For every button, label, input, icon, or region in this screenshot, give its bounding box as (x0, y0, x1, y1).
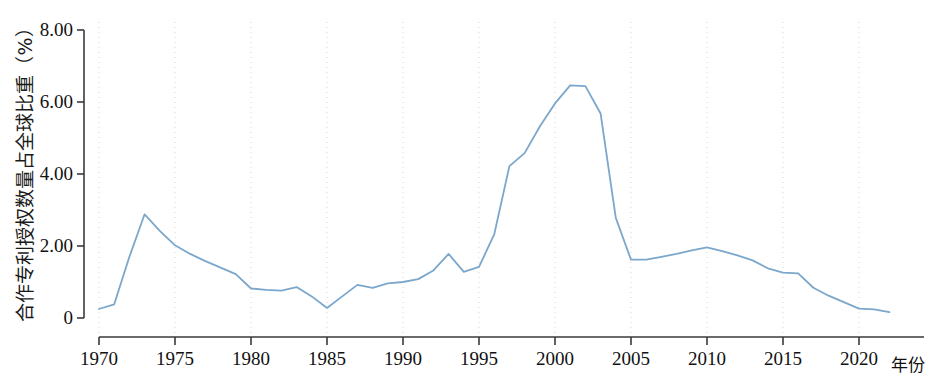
x-tick-label-1975: 1975 (147, 349, 203, 368)
y-tick-label-6: 6.00 (40, 92, 73, 111)
x-tick-label-1995: 1995 (451, 349, 507, 368)
x-tick-label-1980: 1980 (223, 349, 279, 368)
y-tick-label-8: 8.00 (40, 20, 73, 39)
x-tick-label-1990: 1990 (375, 349, 431, 368)
x-tick-label-2005: 2005 (603, 349, 659, 368)
y-tick-label-2: 2.00 (40, 236, 73, 255)
data-series-line (99, 85, 889, 312)
x-axis-title: 年份 (891, 351, 925, 376)
y-tick-label-4: 4.00 (40, 164, 73, 183)
x-tick-label-1970: 1970 (71, 349, 127, 368)
x-tick-label-1985: 1985 (299, 349, 355, 368)
x-tick-label-2015: 2015 (755, 349, 811, 368)
x-tick-label-2000: 2000 (527, 349, 583, 368)
x-tick-label-2010: 2010 (679, 349, 735, 368)
y-tick-label-0: 0 (64, 308, 74, 327)
x-tick-label-2020: 2020 (831, 349, 887, 368)
